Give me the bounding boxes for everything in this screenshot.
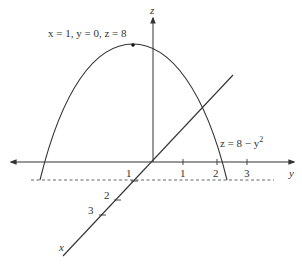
- z-axis-label: z: [149, 4, 155, 16]
- diagram-canvas: x = 1, y = 0, z = 8 z = 8 − y2 z y x 1 2…: [0, 0, 302, 264]
- curve-label: z = 8 − y2: [220, 135, 263, 149]
- y-axis-label: y: [288, 167, 294, 179]
- x-tick-label-3: 3: [88, 204, 94, 216]
- x-axis-label: x: [58, 241, 64, 253]
- y-tick-label-3: 3: [244, 167, 250, 179]
- y-tick-label-1: 1: [180, 167, 186, 179]
- x-tick-label-1: 1: [126, 167, 132, 179]
- vertex-point: [131, 43, 135, 47]
- x-tick-label-2: 2: [104, 189, 110, 201]
- y-tick-label-2: 2: [213, 167, 219, 179]
- point-label: x = 1, y = 0, z = 8: [48, 27, 127, 39]
- x-axis: [63, 75, 233, 256]
